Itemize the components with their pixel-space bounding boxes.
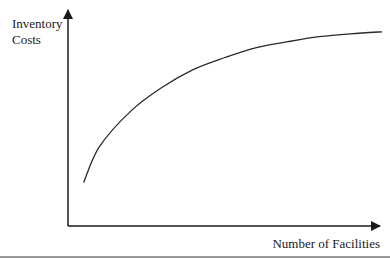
y-axis-label-line-2: Costs — [12, 32, 63, 48]
y-axis-label-line-1: Inventory — [12, 16, 63, 32]
inventory-cost-curve — [84, 32, 382, 183]
bottom-divider — [0, 256, 390, 258]
y-axis-label: Inventory Costs — [12, 16, 63, 48]
x-axis-label: Number of Facilities — [272, 236, 380, 252]
